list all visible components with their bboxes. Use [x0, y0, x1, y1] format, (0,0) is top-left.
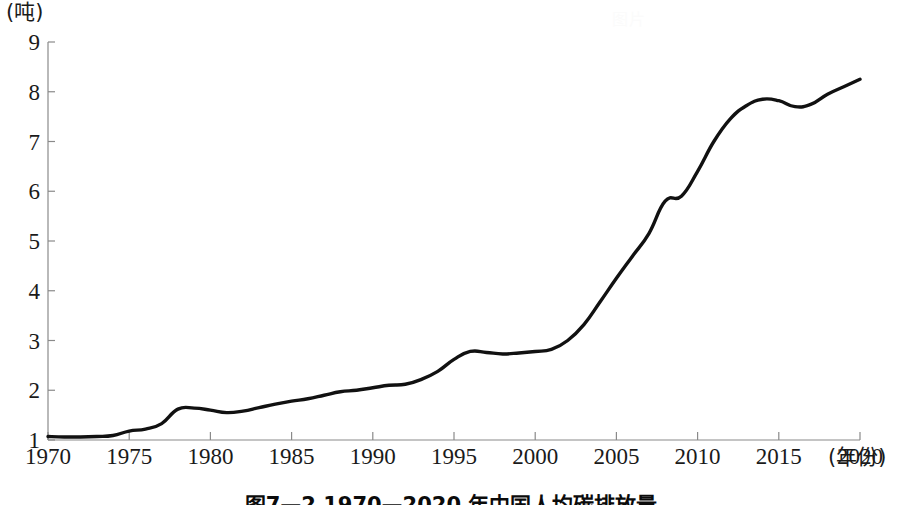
x-axis-tick-label: 1980 [187, 445, 233, 468]
data-series-line [48, 79, 860, 437]
y-axis-tick-label: 3 [14, 329, 40, 352]
y-axis-tick-label: 4 [14, 279, 40, 302]
axis-lines [48, 42, 860, 440]
x-axis-tick-label: 1970 [25, 445, 71, 468]
y-axis-tick-label: 9 [14, 31, 40, 54]
x-axis-tick-label: 1990 [350, 445, 396, 468]
y-axis-tick-label: 8 [14, 80, 40, 103]
y-axis-unit-label: (吨) [6, 2, 43, 23]
watermark: 图片 [612, 6, 646, 30]
x-axis-unit-label: (年份) [828, 447, 886, 468]
y-axis-tick-labels: 123456789 [8, 42, 40, 440]
x-axis-tick-label: 1975 [106, 445, 152, 468]
x-axis-tick-label: 2010 [675, 445, 721, 468]
x-axis-tick-marks [48, 432, 860, 440]
figure-root: 图片 (吨) 123456789 19701975198019851990199… [0, 0, 902, 505]
x-axis-tick-label: 1995 [431, 445, 477, 468]
x-axis-tick-label: 2005 [593, 445, 639, 468]
line-chart-svg [48, 42, 860, 440]
figure-caption: 图7—2 1970—2020 年中国人均碳排放量 [0, 488, 902, 505]
x-axis-tick-label: 1985 [269, 445, 315, 468]
x-axis-tick-label: 2015 [756, 445, 802, 468]
x-axis-tick-label: 2000 [512, 445, 558, 468]
y-axis-tick-marks [48, 42, 55, 440]
x-axis-tick-labels: 1970197519801985199019952000200520102015… [0, 445, 902, 475]
plot-area [48, 42, 860, 440]
y-axis-tick-label: 5 [14, 230, 40, 253]
y-axis-tick-label: 6 [14, 180, 40, 203]
y-axis-tick-label: 2 [14, 379, 40, 402]
y-axis-tick-label: 7 [14, 130, 40, 153]
